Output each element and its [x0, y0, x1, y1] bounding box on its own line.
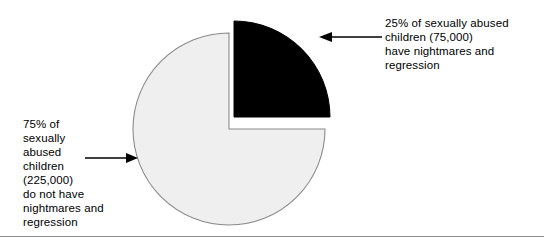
pie-chart-figure: 75% of sexually abused children (225,000… [0, 0, 544, 246]
callout-label-left-75-percent: 75% of sexually abused children (225,000… [23, 117, 143, 229]
pie-slice-black-25 [234, 21, 330, 117]
right-callout-arrow [319, 32, 382, 42]
callout-label-right-25-percent: 25% of sexually abused children (75,000)… [385, 16, 544, 72]
bottom-divider-rule [0, 236, 544, 237]
